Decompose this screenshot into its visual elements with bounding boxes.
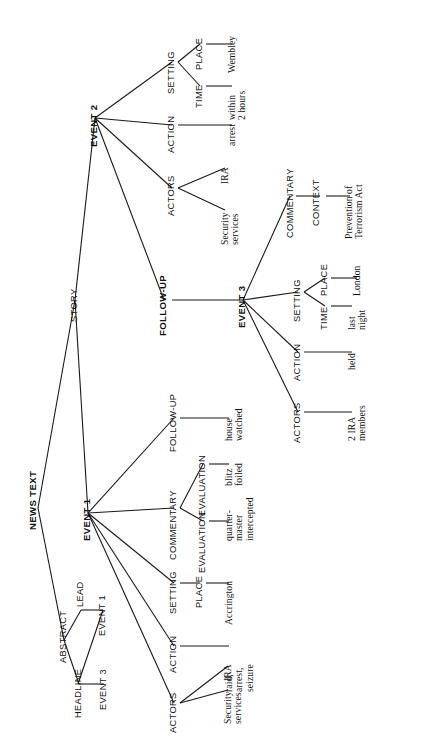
leaf-e1-eval-b-value: blitz foiled (224, 463, 245, 486)
edge-newstext-story (38, 300, 75, 508)
edge-e1-commentary (88, 508, 174, 513)
leaf-e1-eval-a-value: quarter- master intercepted (224, 497, 255, 541)
node-event3: EVENT 3 (237, 286, 247, 328)
leaf-e2-place-value: Wembley (227, 36, 237, 73)
node-e3-time: TIME (319, 306, 329, 330)
edge-e2actors-ira (178, 168, 225, 188)
node-news-text: NEWS TEXT (28, 471, 38, 530)
node-e1-setting: SETTING (168, 571, 178, 614)
node-e2-time: TIME (194, 84, 204, 108)
node-headline: HEADLINE (73, 669, 83, 718)
leaf-e3-context-value: Prevention of Terrorism Act (344, 184, 365, 239)
node-e2-action: ACTION (166, 116, 176, 153)
node-e2-actors: ACTORS (166, 175, 176, 216)
node-e1-evaluation-a: EVALUATION (197, 512, 207, 573)
leaf-e3-actors-value: 2 IRA members (347, 405, 368, 441)
node-abstract: ABSTRACT (58, 611, 68, 663)
leaf-e3-action-value: held (347, 353, 357, 370)
node-e2-followup: FOLLOW-UP (158, 275, 168, 336)
node-e1-actors: ACTORS (168, 692, 178, 733)
node-e1-followup: FOLLOW-UP (168, 394, 178, 452)
leaf-e2-time-value: within 2 hours (227, 91, 248, 120)
diagram-canvas: NEWS TEXT ABSTRACT LEAD HEADLINE EVENT 1… (0, 0, 424, 738)
edge-e2-action (95, 118, 172, 125)
leaf-e1-place-value: Accrington (224, 581, 234, 625)
edge-e1-followup (88, 418, 174, 513)
node-e1-evaluation-b: EVALUATION (197, 455, 207, 516)
leaf-e3-time-value: last night (347, 310, 368, 330)
node-story: STORY (69, 289, 79, 322)
leaf-e1-actors-security: Security services (223, 691, 244, 724)
node-e3-commentary: COMMENTARY (285, 168, 295, 238)
edge-e2-actors (95, 118, 172, 188)
leaf-e1-followup-value: house watched (224, 408, 245, 441)
node-e3-actors: ACTORS (292, 402, 302, 443)
leaf-e3-place-value: London (352, 266, 362, 296)
node-e2-setting: SETTING (166, 51, 176, 94)
node-e1-place: PLACE (194, 576, 204, 608)
edge-e2-setting (95, 62, 172, 118)
node-abstract-event1: EVENT 1 (97, 595, 107, 636)
edge-e3-setting (243, 292, 298, 300)
node-e1-action: ACTION (168, 636, 178, 673)
edge-e3-commentary (243, 196, 290, 300)
edge-e3-action (243, 300, 298, 352)
edge-e2-followup (95, 118, 164, 300)
leaf-e2-actors-ira: IRA (220, 167, 230, 184)
leaf-e2-action-value: arrest (227, 124, 237, 146)
node-e3-context: CONTEXT (311, 179, 321, 226)
node-abstract-event3: EVENT 3 (98, 669, 108, 710)
leaf-e1-action-value: raid, arrest, seizure (224, 664, 255, 692)
node-e3-action: ACTION (292, 344, 302, 381)
node-lead: LEAD (75, 581, 85, 607)
node-e3-place: PLACE (319, 264, 329, 296)
node-e1-commentary: COMMENTARY (168, 490, 178, 560)
edge-e3-actors (243, 300, 298, 412)
edge-story-event1 (75, 300, 88, 513)
edge-e1actors-ira (180, 666, 228, 703)
leaf-e2-actors-security: Security services (220, 212, 241, 245)
node-event1: EVENT 1 (82, 499, 92, 541)
node-e3-setting: SETTING (292, 279, 302, 322)
edge-e1-setting (88, 513, 174, 583)
edge-e1actors-sec (180, 690, 228, 703)
node-e2-place: PLACE (194, 38, 204, 70)
edge-e2actors-sec (178, 188, 225, 210)
node-event2: EVENT 2 (89, 105, 99, 147)
